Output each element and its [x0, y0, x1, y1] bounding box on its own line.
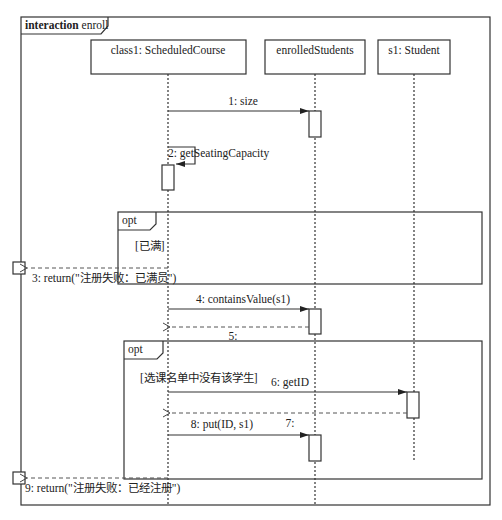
lifeline-label: s1: Student: [388, 44, 440, 56]
svg-text:3: return("注册失败：已满员"): 3: return("注册失败：已满员"): [32, 271, 176, 285]
lifeline-label: class1: ScheduledCourse: [111, 44, 226, 56]
opt-fragment-2: opt [选课名单中没有该学生]: [124, 341, 482, 479]
activation-bar: [162, 165, 174, 190]
message-5[interactable]: 5:: [170, 327, 309, 342]
activation-bar: [309, 309, 321, 334]
interaction-frame: interaction enroll: [21, 17, 490, 505]
svg-text:6: getID: 6: getID: [271, 376, 309, 389]
guard: [选课名单中没有该学生]: [140, 371, 258, 384]
frame-title: interaction enroll: [25, 19, 108, 31]
message-3[interactable]: 3: return("注册失败：已满员"): [13, 262, 176, 285]
svg-text:2: getSeatingCapacity: 2: getSeatingCapacity: [168, 147, 269, 160]
svg-text:9: return("注册失败：已经注册"): 9: return("注册失败：已经注册"): [25, 481, 180, 495]
message-1[interactable]: 1: size: [168, 95, 309, 111]
gate: [13, 472, 25, 484]
message-2[interactable]: 2: getSeatingCapacity: [168, 147, 269, 164]
gate: [13, 262, 25, 274]
message-9[interactable]: 9: return("注册失败：已经注册"): [13, 472, 180, 495]
activation-bar: [309, 111, 321, 137]
svg-text:5:: 5:: [229, 330, 238, 342]
message-4[interactable]: 4: containsValue(s1): [168, 293, 309, 309]
svg-text:1: size: 1: size: [228, 95, 258, 107]
svg-text:7:: 7:: [286, 417, 295, 429]
activation-bar: [407, 392, 419, 418]
svg-text:8: put(ID, s1): 8: put(ID, s1): [191, 418, 253, 431]
lifeline-label: enrolledStudents: [276, 44, 354, 56]
guard: [已满]: [135, 240, 165, 252]
activation-bar: [309, 435, 321, 461]
svg-text:opt: opt: [128, 343, 144, 356]
svg-text:opt: opt: [122, 214, 138, 227]
svg-text:4: containsValue(s1): 4: containsValue(s1): [196, 293, 290, 306]
sequence-diagram: interaction enroll class1: ScheduledCour…: [0, 0, 502, 520]
